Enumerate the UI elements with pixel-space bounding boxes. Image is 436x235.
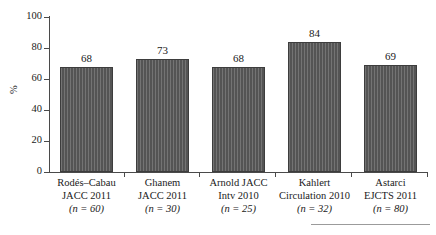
y-tick-mark	[44, 48, 50, 49]
y-tick-mark	[44, 17, 50, 18]
footer-rule	[311, 224, 430, 225]
bar-value-label: 68	[212, 52, 265, 64]
y-tick-label: 20	[14, 135, 42, 145]
category-author: Astarci	[348, 176, 433, 189]
category-source: EJCTS 2011	[348, 189, 433, 202]
category-source: JACC 2011	[120, 189, 205, 202]
category-author: Rodés–Cabau	[44, 176, 129, 189]
y-tick-label: 40	[14, 104, 42, 114]
y-tick-label: 0	[14, 166, 42, 176]
category-label-rodes-cabau: Rodés–Cabau JACC 2011 (n = 60)	[44, 176, 129, 216]
bar-ghanem[interactable]	[136, 59, 189, 172]
category-n: (n = 60)	[44, 202, 129, 215]
y-tick-mark	[44, 79, 50, 80]
y-tick-label: 80	[14, 42, 42, 52]
y-axis-label: %	[8, 83, 19, 97]
bar-astarci[interactable]	[364, 65, 417, 172]
category-n: (n = 80)	[348, 202, 433, 215]
y-axis-line	[49, 16, 50, 173]
bar-kahlert[interactable]	[288, 42, 341, 172]
y-tick-mark	[44, 172, 50, 173]
x-axis-line	[49, 172, 428, 173]
bar-arnold[interactable]	[212, 67, 265, 172]
y-tick-label: 60	[14, 73, 42, 83]
y-tick-mark	[44, 141, 50, 142]
bar-value-label: 68	[60, 52, 113, 64]
bar-value-label: 73	[136, 44, 189, 56]
y-tick-label: 100	[14, 11, 42, 21]
category-label-astarci: Astarci EJCTS 2011 (n = 80)	[348, 176, 433, 216]
y-tick-mark	[44, 110, 50, 111]
bar-value-label: 69	[364, 50, 417, 62]
category-author: Ghanem	[120, 176, 205, 189]
bar-value-label: 84	[288, 27, 341, 39]
category-n: (n = 30)	[120, 202, 205, 215]
bar-rodes-cabau[interactable]	[60, 67, 113, 172]
bar-chart-figure: % 100 80 60 40 20 0 68 73 68	[0, 0, 436, 235]
category-source: JACC 2011	[44, 189, 129, 202]
category-label-ghanem: Ghanem JACC 2011 (n = 30)	[120, 176, 205, 216]
